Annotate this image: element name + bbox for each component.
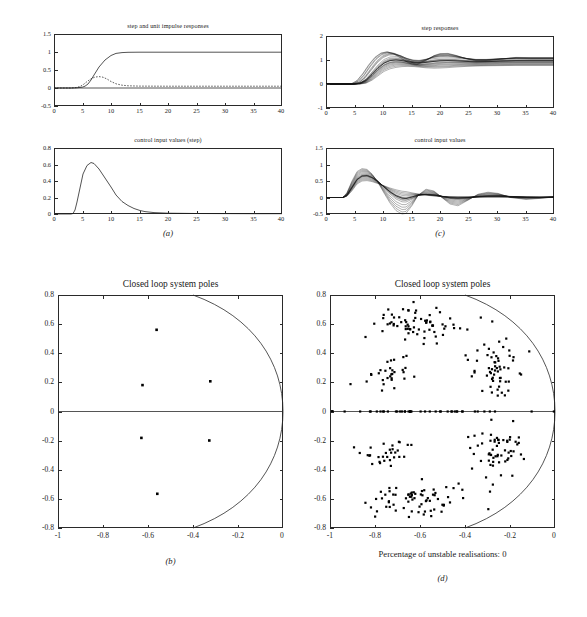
pole-marker (423, 330, 425, 332)
pole-marker (408, 516, 410, 518)
pole-marker (384, 494, 386, 496)
pole-marker (385, 506, 387, 508)
y-tick (330, 353, 334, 354)
y-tick-label: -0.6 (314, 495, 326, 503)
pole-marker (499, 368, 501, 370)
pole-marker (436, 342, 438, 344)
plot-title: Closed loop system poles (58, 280, 283, 289)
y-tick-label: 1 (320, 57, 323, 63)
pole-marker (439, 410, 441, 412)
plot-title: control input values (step) (54, 137, 282, 143)
y-tick (330, 499, 334, 500)
x-tick-label: 0 (280, 532, 284, 540)
x-tick-label: 0 (52, 108, 55, 114)
pole-marker (209, 380, 212, 383)
pole-marker (491, 378, 493, 380)
y-tick-label: 0 (322, 408, 326, 416)
pole-marker (380, 491, 382, 493)
pole-marker (417, 511, 419, 513)
pole-marker (473, 435, 475, 437)
pole-marker (391, 377, 393, 379)
pole-marker (489, 410, 491, 412)
plot-title: control input values (326, 137, 554, 143)
x-tick-label: 0 (324, 216, 327, 222)
pole-marker (509, 355, 511, 357)
pole-marker (349, 383, 351, 385)
plot-step-and-impulse-responses: step and unit impulse responses 0 5 10 1… (54, 34, 282, 106)
x-tick (526, 105, 527, 109)
pole-marker (389, 449, 391, 451)
pole-marker (373, 323, 375, 325)
pole-marker (382, 317, 384, 319)
pole-marker (353, 446, 355, 448)
pole-marker (407, 328, 409, 330)
y-tick (58, 412, 62, 413)
pole-marker (512, 450, 514, 452)
y-tick-label: -0.2 (42, 437, 54, 445)
pole-marker (489, 491, 491, 493)
pole-marker (414, 493, 416, 495)
pole-marker (393, 387, 395, 389)
pole-marker (391, 314, 393, 316)
y-tick-label: -0.8 (314, 524, 326, 532)
pole-marker (509, 436, 511, 438)
pole-marker (407, 501, 409, 503)
pole-marker (377, 456, 379, 458)
pole-marker (486, 375, 488, 377)
x-tick-top (420, 295, 421, 299)
pole-marker (429, 321, 431, 323)
x-tick-label: 15 (408, 110, 414, 116)
pole-marker (429, 500, 431, 502)
y-tick (326, 214, 330, 215)
x-tick-label: 40 (550, 216, 556, 222)
pole-marker (423, 343, 425, 345)
pole-marker (402, 356, 404, 358)
pole-marker (376, 510, 378, 512)
x-tick-label: -0.4 (187, 532, 199, 540)
y-tick (54, 148, 58, 149)
pole-marker (415, 309, 417, 311)
pole-marker (435, 307, 437, 309)
pole-marker (424, 510, 426, 512)
pole-marker (386, 377, 388, 379)
pole-marker (379, 462, 381, 464)
pole-marker (492, 449, 494, 451)
pole-marker (420, 318, 422, 320)
x-tick (148, 525, 149, 529)
pole-marker (389, 322, 391, 324)
x-tick (412, 211, 413, 215)
x-tick-label: 25 (465, 110, 471, 116)
x-tick-top (148, 295, 149, 299)
pole-marker (494, 369, 496, 371)
y-tick (54, 34, 58, 35)
x-tick-label: 35 (522, 110, 528, 116)
pole-marker (488, 460, 490, 462)
pole-marker (388, 501, 390, 503)
x-tick (497, 105, 498, 109)
y-tick-label: 0.8 (317, 291, 327, 299)
x-tick (469, 211, 470, 215)
x-tick-label: 10 (380, 216, 386, 222)
series-nominal-step-response (326, 60, 554, 84)
pole-marker (452, 324, 454, 326)
pole-marker (403, 456, 405, 458)
pole-marker (344, 410, 346, 412)
pole-marker (498, 461, 500, 463)
pole-marker (483, 410, 485, 412)
pole-marker (506, 440, 508, 442)
pole-marker (412, 301, 414, 303)
x-tick (553, 105, 554, 109)
y-tick-right (280, 382, 284, 383)
pole-marker (413, 326, 415, 328)
pole-marker (523, 458, 525, 460)
pole-marker (418, 328, 420, 330)
pole-marker (441, 323, 443, 325)
x-tick-label: 0 (552, 532, 556, 540)
pole-marker (493, 374, 495, 376)
x-tick-label: 10 (108, 216, 114, 222)
pole-marker (490, 419, 492, 421)
plot-control-input-values-step: control input values (step) 0 5 10 15 20… (54, 148, 282, 214)
pole-marker (386, 361, 388, 363)
y-tick-label: 0 (320, 194, 323, 200)
pole-marker (141, 384, 144, 387)
